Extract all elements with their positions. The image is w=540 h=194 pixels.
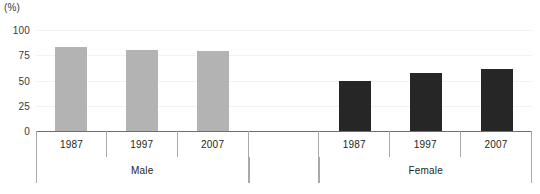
y-axis-tick-label: 25 — [0, 100, 30, 111]
gridline-50 — [36, 81, 532, 82]
x-axis-group-spacer — [249, 157, 320, 183]
bar-female-1987 — [339, 81, 371, 132]
x-axis-cell-year: 1997 — [107, 131, 178, 157]
x-axis-group-row: MaleFemale — [36, 157, 532, 183]
x-axis-cell-spacer — [249, 131, 320, 157]
x-axis-year-row: 198719972007198719972007 — [36, 131, 532, 157]
x-axis-group-label-male: Male — [36, 157, 249, 183]
x-axis-cell-year: 1987 — [319, 131, 390, 157]
y-axis-tick-label: 75 — [0, 50, 30, 61]
y-axis-tick-label: 0 — [0, 126, 30, 137]
y-axis-tick-label: 100 — [0, 25, 30, 36]
bar-male-1997 — [126, 50, 158, 131]
gridline-75 — [36, 55, 532, 56]
gridline-100 — [36, 30, 532, 31]
bar-male-1987 — [55, 47, 87, 131]
y-axis-tick-label: 50 — [0, 75, 30, 86]
x-axis-cell-year: 2007 — [178, 131, 249, 157]
bar-female-2007 — [481, 69, 513, 131]
x-axis-group-label-female: Female — [319, 157, 532, 183]
gridline-25 — [36, 106, 532, 107]
y-axis-unit-label: (%) — [4, 2, 20, 13]
x-axis-cell-year: 1997 — [390, 131, 461, 157]
x-axis-cell-year: 2007 — [461, 131, 532, 157]
x-axis-cell-year: 1987 — [36, 131, 107, 157]
x-axis-table: 198719972007198719972007 MaleFemale — [36, 131, 532, 183]
plot-area: 0255075100 — [36, 30, 532, 131]
bar-chart: (%) 0255075100 198719972007198719972007 … — [0, 0, 540, 194]
bar-female-1997 — [410, 73, 442, 131]
bar-male-2007 — [197, 51, 229, 131]
